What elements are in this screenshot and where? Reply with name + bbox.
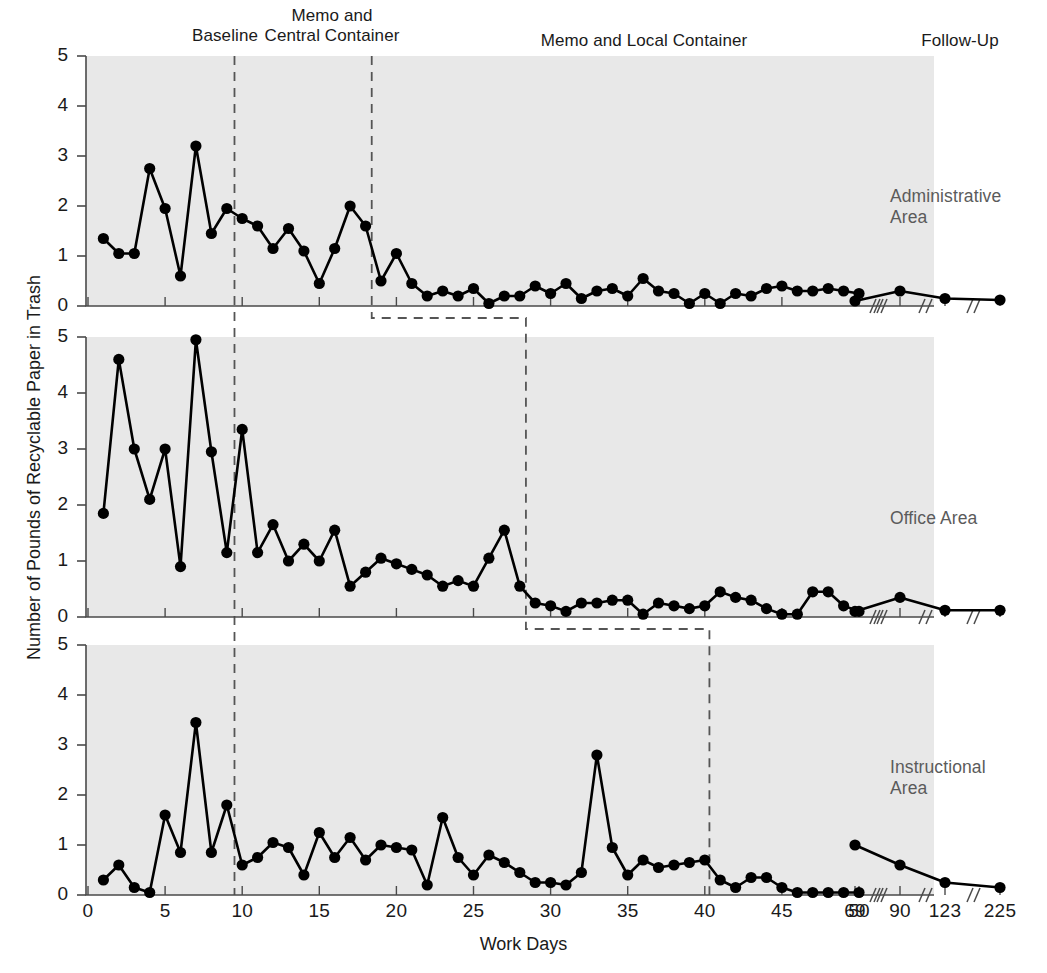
- data-point: [314, 555, 325, 566]
- data-point: [375, 839, 386, 850]
- data-point: [668, 859, 679, 870]
- data-point: [849, 839, 860, 850]
- recycling-multiple-baseline-figure: BaselineMemo and Central ContainerMemo a…: [0, 0, 1047, 973]
- data-point: [129, 882, 140, 893]
- data-point: [499, 857, 510, 868]
- data-point: [206, 228, 217, 239]
- y-tick-label: 1: [12, 833, 68, 855]
- data-point: [298, 869, 309, 880]
- data-point: [730, 882, 741, 893]
- data-point: [699, 600, 710, 611]
- data-point: [175, 561, 186, 572]
- data-point: [468, 869, 479, 880]
- data-point: [314, 278, 325, 289]
- axis-break-mark: [967, 610, 973, 624]
- data-point: [807, 887, 818, 898]
- data-point: [823, 283, 834, 294]
- x-tick-label: 35: [598, 900, 658, 922]
- data-point: [483, 849, 494, 860]
- data-point: [715, 586, 726, 597]
- data-point: [715, 874, 726, 885]
- data-point: [939, 605, 950, 616]
- data-point: [237, 424, 248, 435]
- data-point: [699, 854, 710, 865]
- data-point: [591, 285, 602, 296]
- x-tick-label: 45: [752, 900, 812, 922]
- data-point: [129, 443, 140, 454]
- data-point: [746, 872, 757, 883]
- data-point: [267, 519, 278, 530]
- data-point: [252, 220, 263, 231]
- data-point: [638, 273, 649, 284]
- data-point: [98, 508, 109, 519]
- data-point: [345, 581, 356, 592]
- data-point: [453, 852, 464, 863]
- data-point: [221, 547, 232, 558]
- data-point: [792, 887, 803, 898]
- data-point: [113, 859, 124, 870]
- data-point: [113, 354, 124, 365]
- data-point: [206, 847, 217, 858]
- data-point: [391, 558, 402, 569]
- data-point: [622, 290, 633, 301]
- data-point: [160, 809, 171, 820]
- data-point: [823, 586, 834, 597]
- data-point: [175, 270, 186, 281]
- data-point: [545, 600, 556, 611]
- data-point: [375, 275, 386, 286]
- data-point: [894, 285, 905, 296]
- x-tick-label: 123: [915, 900, 975, 922]
- x-axis-title: Work Days: [0, 934, 1047, 955]
- panel-background-2: [86, 337, 934, 617]
- data-point: [560, 606, 571, 617]
- data-point: [730, 592, 741, 603]
- y-tick-label: 4: [12, 94, 68, 116]
- axis-break-mark: [974, 299, 980, 313]
- data-point: [591, 597, 602, 608]
- x-tick-label: 10: [212, 900, 272, 922]
- data-point: [360, 567, 371, 578]
- panel-label-2: Office Area: [890, 508, 977, 529]
- data-point: [638, 609, 649, 620]
- data-point: [298, 539, 309, 550]
- data-point: [283, 223, 294, 234]
- data-point: [468, 581, 479, 592]
- data-point: [283, 555, 294, 566]
- data-point: [514, 867, 525, 878]
- panels-layer: [86, 56, 934, 895]
- data-point: [653, 285, 664, 296]
- data-point: [939, 293, 950, 304]
- data-point: [345, 832, 356, 843]
- data-point: [653, 597, 664, 608]
- data-point: [98, 233, 109, 244]
- data-point: [360, 220, 371, 231]
- phase-header-4: Follow-Up: [880, 31, 1040, 51]
- data-point: [776, 609, 787, 620]
- data-point: [391, 842, 402, 853]
- data-point: [939, 877, 950, 888]
- data-point: [329, 852, 340, 863]
- data-point: [653, 862, 664, 873]
- data-point: [237, 859, 248, 870]
- data-point: [530, 280, 541, 291]
- data-point: [776, 280, 787, 291]
- data-point: [329, 243, 340, 254]
- data-point: [283, 842, 294, 853]
- data-point: [622, 869, 633, 880]
- phase-header-3: Memo and Local Container: [494, 31, 794, 51]
- data-point: [499, 290, 510, 301]
- data-point: [684, 857, 695, 868]
- panel-label-3: Instructional Area: [890, 757, 986, 799]
- data-point: [129, 248, 140, 259]
- data-point: [545, 288, 556, 299]
- data-point: [499, 525, 510, 536]
- data-point: [607, 842, 618, 853]
- data-point: [175, 847, 186, 858]
- x-tick-label: 25: [444, 900, 504, 922]
- data-point: [422, 879, 433, 890]
- data-point: [715, 298, 726, 309]
- data-point: [684, 298, 695, 309]
- panel-label-1: Administrative Area: [890, 186, 1001, 228]
- data-point: [514, 290, 525, 301]
- data-point: [622, 595, 633, 606]
